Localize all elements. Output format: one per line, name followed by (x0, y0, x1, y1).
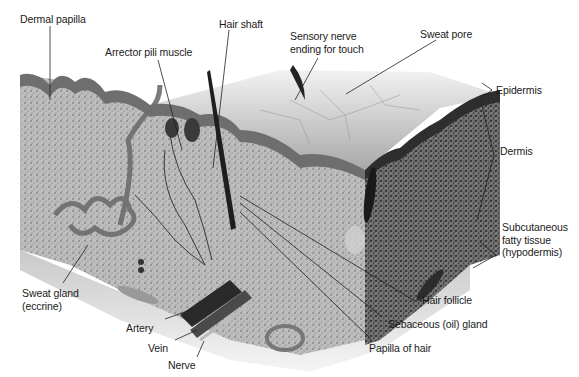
label-epidermis: Epidermis (496, 84, 542, 97)
label-subcutaneous: Subcutaneous fatty tissue (hypodermis) (502, 221, 568, 259)
label-artery: Artery (126, 322, 153, 335)
label-papilla-of-hair: Papilla of hair (369, 342, 431, 355)
label-arrector-pili: Arrector pili muscle (105, 46, 192, 59)
label-sweat-pore: Sweat pore (420, 28, 472, 41)
label-sweat-gland: Sweat gland (eccrine) (22, 287, 79, 312)
label-vein: Vein (148, 342, 168, 355)
label-nerve: Nerve (168, 359, 196, 372)
label-sebaceous-gland: Sebaceous (oil) gland (388, 318, 487, 331)
label-dermis: Dermis (500, 145, 533, 158)
skin-diagram (0, 0, 579, 377)
label-sensory-nerve: Sensory nerve ending for touch (290, 30, 364, 55)
label-hair-shaft: Hair shaft (219, 18, 263, 31)
label-dermal-papilla: Dermal papilla (20, 13, 86, 26)
label-hair-follicle: Hair follicle (422, 294, 472, 307)
